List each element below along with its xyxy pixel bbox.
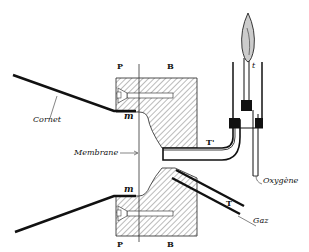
label-p-top: P (117, 62, 123, 70)
apparatus-drawing (0, 0, 309, 252)
label-t: T (226, 199, 232, 207)
label-t-small: t (252, 62, 255, 70)
burner (229, 58, 263, 176)
label-oxygene: Oxygène (263, 177, 298, 185)
label-cornet: Cornet (33, 116, 61, 124)
label-b-top: B (167, 62, 174, 70)
oxygene-pointer (256, 176, 262, 184)
label-membrane: Membrane (74, 149, 118, 157)
diagram: P B P B m m Cornet Membrane T' T t Oxygè… (0, 0, 309, 252)
label-m-bottom: m (124, 185, 134, 194)
flame-icon (242, 13, 255, 62)
label-p-bottom: P (117, 240, 123, 248)
lower-block (116, 168, 197, 236)
label-t-prime: T' (206, 138, 214, 146)
label-m-top: m (124, 112, 134, 121)
label-gaz: Gaz (253, 217, 268, 225)
label-b-bottom: B (167, 240, 174, 248)
